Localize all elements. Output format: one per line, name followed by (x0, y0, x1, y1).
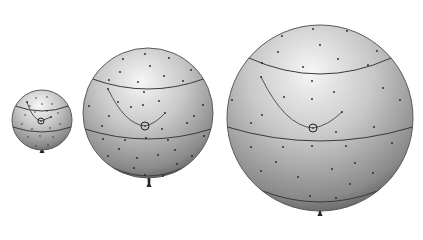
galaxy-dot (161, 128, 163, 130)
galaxy-dot (193, 115, 195, 117)
galaxy-dot (102, 138, 104, 140)
balloon-tie-icon (147, 177, 152, 187)
reference-dot (40, 120, 42, 122)
galaxy-dot (275, 161, 277, 163)
galaxy-dot (260, 76, 262, 78)
balloon-large (227, 25, 413, 216)
galaxy-dot (39, 135, 40, 136)
galaxy-dot (319, 44, 321, 46)
galaxy-dot (302, 66, 304, 68)
galaxy-dot (391, 142, 393, 144)
galaxy-dot (297, 176, 299, 178)
reference-dot (312, 127, 314, 129)
galaxy-dot (29, 105, 30, 106)
galaxy-dot (107, 88, 109, 90)
galaxy-dot (354, 162, 356, 164)
balloon-medium (83, 48, 213, 187)
galaxy-dot (27, 136, 28, 137)
galaxy-dot (203, 135, 205, 137)
galaxy-dot (143, 91, 145, 93)
galaxy-dot (107, 155, 109, 157)
galaxy-dot (51, 103, 52, 104)
galaxy-dot (122, 58, 124, 60)
galaxy-dot (331, 168, 333, 170)
galaxy-dot (130, 106, 132, 108)
galaxy-dot (261, 114, 263, 116)
galaxy-dot (335, 131, 337, 133)
galaxy-dot (176, 163, 178, 165)
galaxy-dot (312, 28, 314, 30)
reference-dot (144, 125, 146, 127)
galaxy-dot (137, 81, 139, 83)
galaxy-dot (260, 170, 262, 172)
galaxy-dot (261, 62, 263, 64)
galaxy-dot (311, 98, 313, 100)
balloon-body (12, 90, 72, 150)
galaxy-dot (144, 53, 146, 55)
galaxy-dot (281, 35, 283, 37)
galaxy-dot (311, 145, 313, 147)
galaxy-dot (345, 145, 347, 147)
galaxy-dot (49, 127, 50, 128)
galaxy-dot (372, 172, 374, 174)
galaxy-dot (191, 155, 193, 157)
galaxy-dot (282, 146, 284, 148)
galaxy-dot (190, 69, 192, 71)
galaxy-dot (35, 97, 36, 98)
galaxy-dot (250, 122, 252, 124)
galaxy-dot (52, 136, 53, 137)
galaxy-dot (117, 101, 119, 103)
galaxy-dot (399, 99, 401, 101)
galaxy-dot (162, 175, 164, 177)
galaxy-dot (202, 104, 204, 106)
galaxy-dot (311, 80, 313, 82)
galaxy-dot (158, 100, 160, 102)
galaxy-dot (59, 123, 60, 124)
galaxy-dot (21, 123, 22, 124)
balloon-body (83, 48, 213, 178)
galaxy-dot (149, 65, 151, 67)
galaxy-dot (50, 116, 52, 118)
galaxy-dot (108, 115, 110, 117)
galaxy-dot (309, 195, 311, 197)
galaxy-dot (349, 183, 351, 185)
galaxy-dot (24, 114, 25, 115)
galaxy-dot (382, 87, 384, 89)
galaxy-dot (168, 57, 170, 59)
galaxy-dot (118, 148, 120, 150)
galaxy-dot (88, 105, 90, 107)
galaxy-dot (26, 101, 28, 103)
galaxy-dot (136, 157, 138, 159)
galaxy-dot (124, 139, 126, 141)
galaxy-dot (31, 128, 32, 129)
galaxy-dot (367, 64, 369, 66)
galaxy-dot (41, 103, 42, 104)
balloon-small (12, 90, 72, 153)
galaxy-dot (341, 111, 343, 113)
galaxy-dot (157, 154, 159, 156)
galaxy-dot (167, 139, 169, 141)
galaxy-dot (108, 79, 110, 81)
galaxy-dot (57, 112, 58, 113)
galaxy-dot (133, 167, 135, 169)
galaxy-dot (174, 149, 176, 151)
galaxy-dot (35, 145, 36, 146)
galaxy-dot (182, 80, 184, 82)
galaxy-dot (376, 50, 378, 52)
galaxy-dot (333, 91, 335, 93)
galaxy-dot (46, 110, 47, 111)
galaxy-dot (142, 104, 144, 106)
galaxy-dot (231, 99, 233, 101)
galaxy-dot (145, 137, 147, 139)
galaxy-dot (101, 125, 103, 127)
galaxy-dot (164, 112, 166, 114)
galaxy-dot (335, 197, 337, 199)
galaxy-dot (144, 174, 146, 176)
galaxy-dot (250, 146, 252, 148)
galaxy-dot (186, 122, 188, 124)
galaxy-dot (46, 96, 47, 97)
galaxy-dot (337, 58, 339, 60)
balloon-body (227, 25, 413, 211)
galaxy-dot (47, 144, 48, 145)
galaxy-dot (373, 126, 375, 128)
